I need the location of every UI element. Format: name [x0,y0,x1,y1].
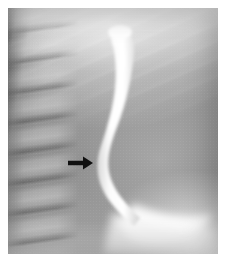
figure-root [0,0,229,270]
arrow-head [83,157,93,170]
pointer-arrow-icon [0,0,229,270]
